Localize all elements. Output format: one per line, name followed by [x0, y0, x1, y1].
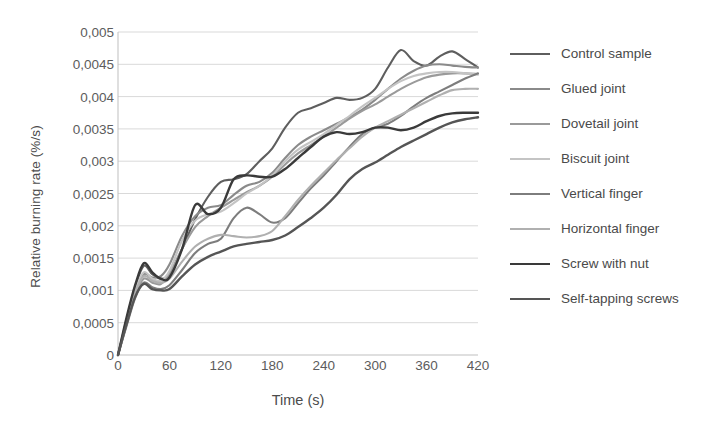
legend-item-label: Glued joint [561, 81, 626, 96]
legend-item[interactable]: Screw with nut [510, 246, 710, 281]
legend-item[interactable]: Dovetail joint [510, 106, 710, 141]
chart-legend: Control sampleGlued jointDovetail jointB… [510, 36, 710, 316]
legend-line-swatch [510, 88, 550, 90]
legend-line-swatch [510, 228, 550, 230]
legend-item-label: Dovetail joint [561, 116, 638, 131]
legend-item-label: Self-tapping screws [561, 291, 679, 306]
series-line [118, 73, 478, 355]
legend-item[interactable]: Self-tapping screws [510, 281, 710, 316]
legend-item[interactable]: Vertical finger [510, 176, 710, 211]
legend-item[interactable]: Glued joint [510, 71, 710, 106]
legend-item-label: Screw with nut [561, 256, 649, 271]
legend-item-label: Biscuit joint [561, 151, 629, 166]
legend-line-swatch [510, 298, 550, 300]
series-line [118, 73, 478, 355]
legend-item-label: Control sample [561, 46, 652, 61]
x-axis-title: Time (s) [118, 392, 478, 408]
legend-item-label: Horizontal finger [561, 221, 659, 236]
data-series-layer [118, 50, 478, 355]
burning-rate-line-chart: Relative burning rate (%/s) 00,00050,001… [0, 0, 717, 435]
legend-item[interactable]: Horizontal finger [510, 211, 710, 246]
legend-line-swatch [510, 123, 550, 125]
legend-item[interactable]: Biscuit joint [510, 141, 710, 176]
legend-line-swatch [510, 193, 550, 195]
legend-line-swatch [510, 158, 550, 160]
legend-item[interactable]: Control sample [510, 36, 710, 71]
legend-item-label: Vertical finger [561, 186, 643, 201]
legend-line-swatch [510, 53, 550, 55]
legend-line-swatch [510, 263, 550, 265]
series-line [118, 64, 478, 355]
x-axis-tick-label: 420 [448, 358, 508, 373]
series-line [118, 72, 478, 355]
gridlines [118, 32, 478, 323]
